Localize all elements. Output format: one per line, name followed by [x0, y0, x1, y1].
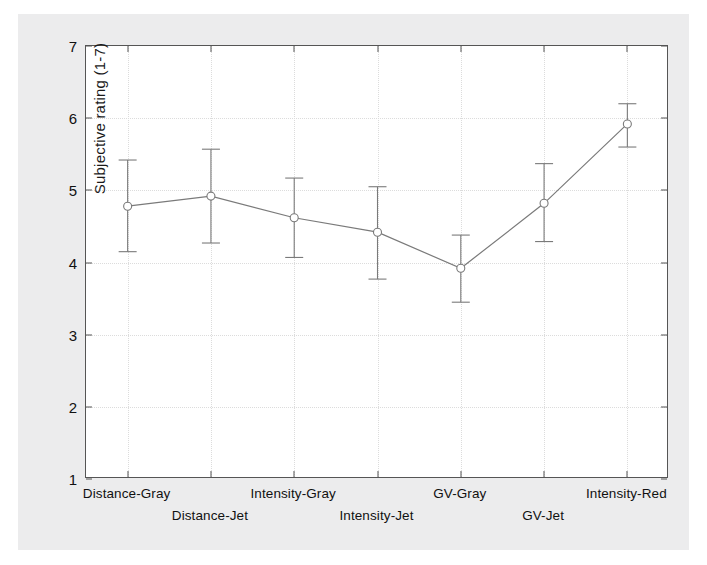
x-tick-label: GV-Gray [433, 486, 486, 501]
y-tick-label: 7 [69, 38, 77, 55]
y-tick-label: 4 [69, 254, 77, 271]
x-tick-label: GV-Jet [522, 508, 564, 523]
x-tick-label: Intensity-Jet [339, 508, 413, 523]
x-tick-label: Distance-Gray [83, 486, 171, 501]
data-series [86, 46, 669, 479]
data-point-marker [457, 264, 465, 272]
x-tick-label: Distance-Jet [172, 508, 248, 523]
y-tick-label: 5 [69, 182, 77, 199]
data-point-marker [124, 202, 132, 210]
figure-root: 1234567 Subjective rating (1-7) Distance… [0, 0, 707, 565]
data-point-marker [207, 192, 215, 200]
data-point-marker [623, 120, 631, 128]
x-tick-label: Intensity-Red [586, 486, 667, 501]
data-point-marker [374, 228, 382, 236]
y-tick-label: 6 [69, 110, 77, 127]
y-axis-label: Subjective rating (1-7) [91, 0, 108, 239]
y-tick-label: 2 [69, 398, 77, 415]
data-point-marker [540, 199, 548, 207]
plot-area: 1234567 [85, 45, 668, 478]
y-tick-label: 3 [69, 326, 77, 343]
data-point-marker [290, 214, 298, 222]
y-tick-label: 1 [69, 471, 77, 488]
x-tick-label: Intensity-Gray [250, 486, 335, 501]
